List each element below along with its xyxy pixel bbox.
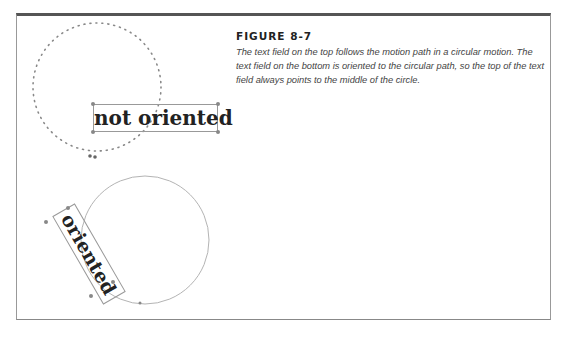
handle-icon xyxy=(216,102,220,106)
handle-icon xyxy=(216,130,220,134)
handle-icon xyxy=(111,280,115,284)
figure-caption-text: The text field on the top follows the mo… xyxy=(236,45,548,87)
not-oriented-text-field: not oriented xyxy=(93,104,218,132)
handle-icon xyxy=(91,130,95,134)
handle-icon xyxy=(66,206,70,210)
handle-icon xyxy=(91,102,95,106)
figure-title: FIGURE 8-7 xyxy=(236,30,548,42)
figure-caption: FIGURE 8-7 The text field on the top fol… xyxy=(236,30,548,87)
handle-icon xyxy=(89,294,93,298)
handle-icon xyxy=(44,220,48,224)
